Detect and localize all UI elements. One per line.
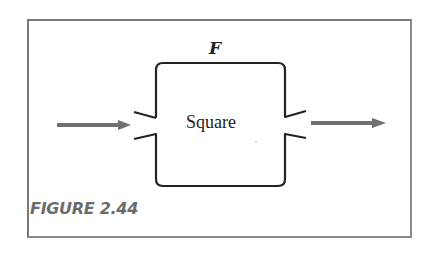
output-port-notch-lower	[285, 134, 306, 138]
input-port-notch-lower	[134, 134, 156, 139]
figure-caption: FIGURE 2.44	[30, 199, 138, 218]
input-port-notch-upper	[134, 112, 156, 118]
speck	[255, 141, 257, 143]
output-arrow-icon	[311, 118, 386, 128]
input-arrow-icon	[57, 120, 131, 130]
box-label: Square	[186, 112, 236, 133]
function-label: F	[209, 38, 221, 58]
output-port-notch-upper	[285, 111, 306, 117]
